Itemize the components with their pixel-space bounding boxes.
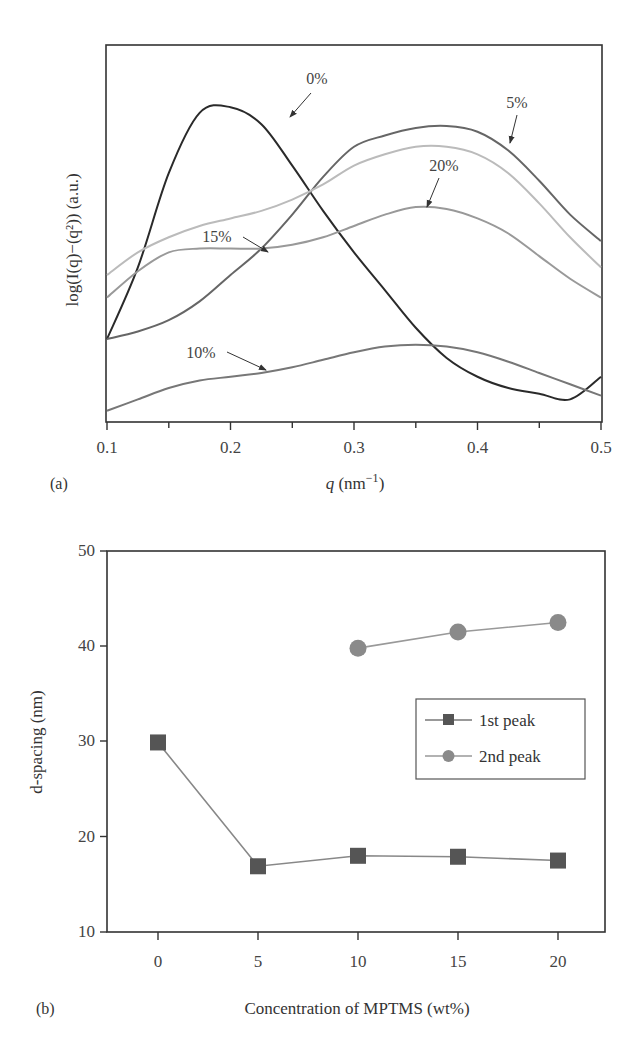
square-marker-icon xyxy=(150,734,166,750)
x-tick-label: 10 xyxy=(350,952,367,971)
panel-b: 10 20 30 40 50 0 5 10 15 20 Concentratio… xyxy=(27,541,605,1018)
arrow-icon xyxy=(427,178,439,207)
curve-annotations-a: 0% 5% 20% 15% 10% xyxy=(186,70,527,370)
circle-marker-icon xyxy=(443,750,455,762)
x-tick-label: 0.2 xyxy=(220,438,241,457)
legend-second-peak: 2nd peak xyxy=(479,747,541,766)
panel-label-a: (a) xyxy=(50,475,68,493)
curve-10pct xyxy=(107,345,601,411)
x-ticks-a xyxy=(107,422,601,430)
square-marker-icon xyxy=(550,853,566,869)
legend-first-peak: 1st peak xyxy=(479,711,536,730)
x-tick-label: 20 xyxy=(550,952,567,971)
label-0pct: 0% xyxy=(306,70,327,87)
y-ticks-b xyxy=(100,551,107,932)
y-tick-label: 20 xyxy=(78,827,95,846)
x-tick-label: 5 xyxy=(254,952,263,971)
figure: 0.1 0.2 0.3 0.4 0.5 q (nm−1) (a) log(I(q… xyxy=(0,0,644,1045)
curve-15pct xyxy=(107,146,601,275)
curve-0pct xyxy=(107,105,601,400)
square-marker-icon xyxy=(443,714,454,725)
label-10pct: 10% xyxy=(186,344,215,361)
y-tick-label: 40 xyxy=(78,636,95,655)
x-axis-title-b: Concentration of MPTMS (wt%) xyxy=(244,999,469,1018)
arrow-icon xyxy=(510,115,517,143)
label-20pct: 20% xyxy=(429,157,458,174)
panel-a: 0.1 0.2 0.3 0.4 0.5 q (nm−1) (a) log(I(q… xyxy=(50,45,612,493)
x-tick-label: 0.1 xyxy=(96,438,117,457)
x-tick-label: 15 xyxy=(450,952,467,971)
legend: 1st peak 2nd peak xyxy=(416,699,585,779)
x-ticks-b xyxy=(158,932,558,940)
arrow-icon xyxy=(227,352,266,370)
arrow-icon xyxy=(290,93,311,117)
x-tick-labels-b: 0 5 10 15 20 xyxy=(154,952,567,971)
y-tick-labels-b: 10 20 30 40 50 xyxy=(78,541,95,941)
label-15pct: 15% xyxy=(202,228,231,245)
x-tick-label: 0.3 xyxy=(343,438,364,457)
x-tick-labels-a: 0.1 0.2 0.3 0.4 0.5 xyxy=(96,438,611,457)
square-marker-icon xyxy=(250,858,266,874)
circle-marker-icon xyxy=(450,623,467,640)
x-axis-title-a: q (nm−1) xyxy=(326,471,385,493)
y-axis-title-a: log(I(q)−(q²)) (a.u.) xyxy=(63,173,82,306)
circle-marker-icon xyxy=(350,640,367,657)
x-tick-label: 0.4 xyxy=(467,438,489,457)
curves-a xyxy=(107,105,601,411)
x-tick-label: 0.5 xyxy=(590,438,611,457)
square-marker-icon xyxy=(450,849,466,865)
y-tick-label: 50 xyxy=(78,541,95,560)
panel-label-b: (b) xyxy=(36,1000,55,1018)
x-tick-label: 0 xyxy=(154,952,163,971)
circle-marker-icon xyxy=(550,614,567,631)
y-axis-title-b: d-spacing (nm) xyxy=(27,690,46,793)
square-marker-icon xyxy=(350,848,366,864)
y-tick-label: 30 xyxy=(78,731,95,750)
label-5pct: 5% xyxy=(506,94,527,111)
y-tick-label: 10 xyxy=(78,922,95,941)
